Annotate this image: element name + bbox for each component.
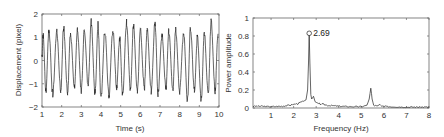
y-tick-label: 0.6 [238, 50, 250, 59]
figure: 12345678910 210−1−2 Time (s) Displacemen… [0, 0, 444, 137]
y-tick-label: −2 [29, 103, 39, 112]
y-tick-label: 0 [34, 57, 39, 66]
left-y-axis-label: Displacement (pixel) [14, 23, 23, 96]
x-tick-label: 4 [337, 111, 342, 120]
x-tick-label: 7 [158, 110, 163, 119]
x-tick-label: 1 [40, 110, 45, 119]
y-tick-label: −1 [29, 80, 39, 89]
x-tick-label: 1 [269, 111, 274, 120]
x-tick-label: 10 [215, 110, 224, 119]
spectrum-line [253, 33, 429, 107]
x-tick-label: 6 [382, 111, 387, 120]
x-tick-label: 2 [59, 110, 64, 119]
right-plot-frame [253, 18, 429, 108]
x-tick-label: 3 [79, 110, 84, 119]
right-y-axis-label: Power amplitude [224, 33, 233, 93]
displacement-line [42, 18, 218, 101]
displacement-chart: 12345678910 210−1−2 Time (s) Displacemen… [14, 10, 224, 133]
y-tick-label: 0.4 [238, 68, 250, 77]
y-tick-label: 0 [245, 104, 250, 113]
x-tick-label: 4 [99, 110, 104, 119]
peak-marker-icon [307, 31, 312, 36]
x-tick-label: 8 [427, 111, 432, 120]
x-tick-label: 5 [359, 111, 364, 120]
y-tick-label: 0.2 [238, 86, 250, 95]
right-y-ticks: 10.80.60.40.20 [238, 14, 429, 113]
left-y-ticks: 210−1−2 [29, 10, 219, 112]
x-tick-label: 8 [177, 110, 182, 119]
y-tick-label: 1 [34, 33, 39, 42]
x-tick-label: 9 [197, 110, 202, 119]
y-tick-label: 0.8 [238, 32, 250, 41]
x-tick-label: 3 [314, 111, 319, 120]
y-tick-label: 2 [34, 10, 39, 19]
power-spectrum-chart: 12345678 10.80.60.40.20 2.69 Frequency (… [224, 14, 432, 133]
peak-annotation: 2.69 [313, 28, 330, 38]
right-x-axis-label: Frequency (Hz) [313, 124, 368, 133]
x-tick-label: 2 [291, 111, 296, 120]
y-tick-label: 1 [245, 14, 250, 23]
x-tick-label: 6 [138, 110, 143, 119]
x-tick-label: 7 [404, 111, 409, 120]
left-x-axis-label: Time (s) [115, 124, 144, 133]
x-tick-label: 5 [118, 110, 123, 119]
